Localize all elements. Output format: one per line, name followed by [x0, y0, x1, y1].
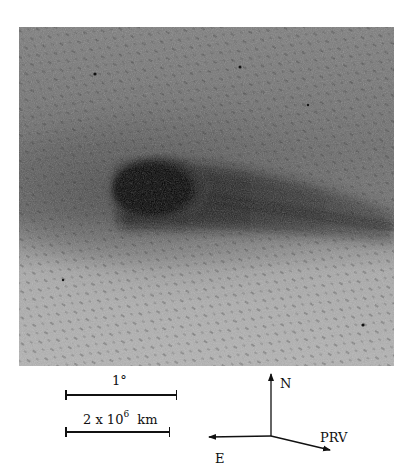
scale-bar-tick-right: [169, 427, 171, 437]
scale-bar-distance-label: 2 x 106 km: [83, 411, 158, 427]
scale-bar-distance: [65, 427, 170, 437]
scale-bar-tick-right: [176, 390, 178, 400]
orientation-compass: N E PRV: [200, 365, 360, 475]
scale-bar-degree-label: 1°: [112, 373, 127, 388]
comet-image-svg: [19, 27, 394, 366]
compass-north-label: N: [280, 376, 291, 391]
comet-photograph: [19, 27, 394, 366]
scale-bar-distance-base: 2 x 10: [83, 412, 123, 427]
scale-bar-degree: [65, 390, 177, 400]
scale-bar-distance-exponent: 6: [123, 409, 129, 419]
compass-prv-label: PRV: [320, 430, 347, 445]
east-arrow: [209, 436, 271, 437]
compass-east-label: E: [215, 451, 225, 466]
scale-bar-line: [65, 394, 177, 396]
scale-bar-distance-unit: km: [137, 412, 157, 427]
scale-bar-tick-left: [65, 427, 67, 437]
scale-bar-tick-left: [65, 390, 67, 400]
scale-bar-line: [65, 431, 170, 433]
